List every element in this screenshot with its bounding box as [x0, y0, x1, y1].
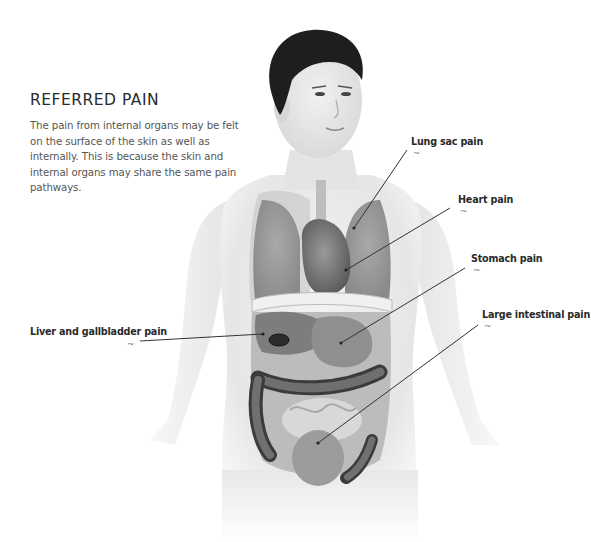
gallbladder [269, 334, 289, 346]
label-lung-marker: ~ [413, 148, 421, 158]
intro-panel: REFERRED PAIN The pain from internal org… [30, 90, 245, 196]
abdominal-cavity [251, 312, 391, 486]
label-stomach-marker: ~ [473, 265, 481, 275]
page-title: REFERRED PAIN [30, 90, 245, 110]
label-lung-sac-pain: Lung sac pain [411, 136, 483, 147]
label-intestine-marker: ~ [484, 321, 492, 331]
label-liver-gallbladder-pain: Liver and gallbladder pain [30, 326, 167, 337]
label-heart-marker: ~ [460, 206, 468, 216]
label-liver-marker: ~ [127, 339, 135, 349]
bladder [292, 430, 344, 486]
intro-text: The pain from internal organs may be fel… [30, 118, 245, 196]
referred-pain-diagram: REFERRED PAIN The pain from internal org… [0, 0, 591, 542]
label-large-intestinal-pain: Large intestinal pain [482, 309, 590, 320]
label-heart-pain: Heart pain [458, 194, 513, 205]
anatomy-illustration [0, 0, 591, 542]
head [269, 30, 363, 158]
label-stomach-pain: Stomach pain [471, 253, 542, 264]
